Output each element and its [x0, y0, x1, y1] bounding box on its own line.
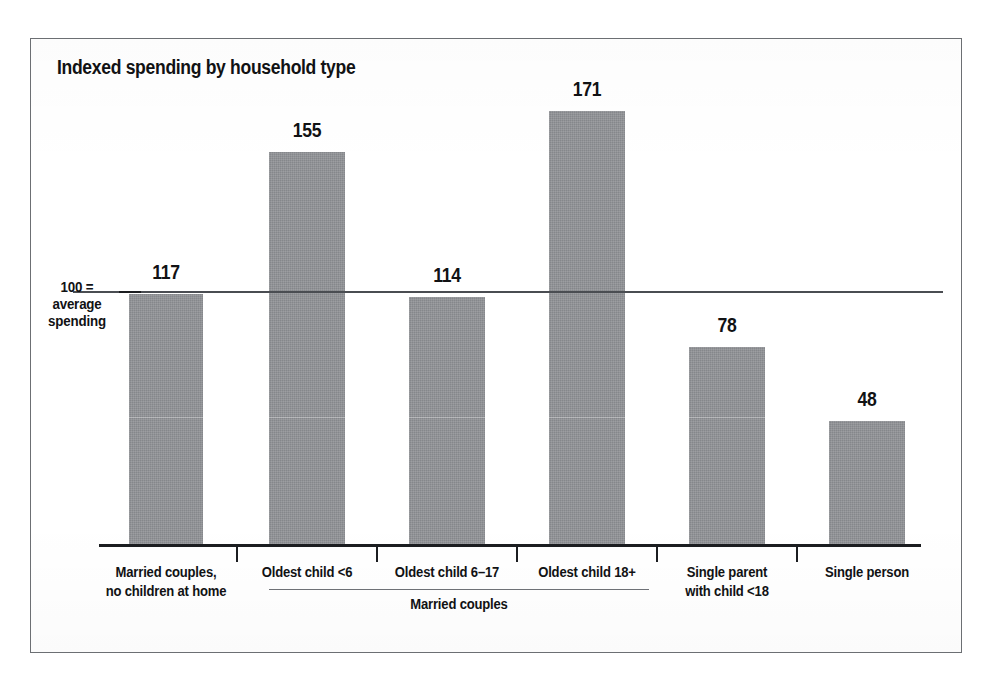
bar-oldest-child-6-17 — [409, 297, 485, 544]
reference-label-line: spending — [40, 313, 114, 330]
plot-area: 117 155 114 171 78 48 100 = average spen… — [31, 39, 962, 653]
bar-value-label: 155 — [274, 119, 341, 142]
category-label-line: Single person — [799, 563, 936, 582]
category-label-married-no-children: Married couples, no children at home — [94, 563, 238, 601]
category-tick — [236, 545, 238, 562]
category-label-line: Oldest child 6–17 — [379, 563, 516, 582]
bar-oldest-child-under-6 — [269, 152, 345, 544]
reference-label-line: average — [40, 296, 114, 313]
bar-single-person — [829, 421, 905, 544]
bar-oldest-child-18-plus — [549, 111, 625, 544]
chart-figure: Indexed spending by household type 117 1… — [30, 38, 962, 653]
reference-line-tick — [119, 291, 141, 293]
category-label-oldest-child-18-plus: Oldest child 18+ — [519, 563, 656, 582]
category-label-line: with child <18 — [659, 582, 796, 601]
reference-line-label: 100 = average spending — [40, 279, 114, 330]
reference-label-line: 100 = — [40, 279, 114, 296]
category-label-line: Single parent — [659, 563, 796, 582]
category-label-single-parent: Single parent with child <18 — [659, 563, 796, 601]
reference-line-100 — [73, 291, 943, 293]
bar-married-no-children — [129, 294, 203, 544]
bar-single-parent-child-under-18 — [689, 347, 765, 544]
category-label-line: no children at home — [94, 582, 238, 601]
bar-value-label: 48 — [834, 388, 901, 411]
group-bracket-label: Married couples — [288, 596, 630, 612]
category-tick — [796, 545, 798, 562]
category-label-oldest-child-under-6: Oldest child <6 — [239, 563, 376, 582]
category-tick — [376, 545, 378, 562]
category-tick — [516, 545, 518, 562]
category-tick — [656, 545, 658, 562]
bar-value-label: 114 — [414, 264, 481, 287]
category-label-line: Oldest child <6 — [239, 563, 376, 582]
bar-value-label: 117 — [133, 261, 198, 284]
category-label-single-person: Single person — [799, 563, 936, 582]
bar-value-label: 78 — [694, 314, 761, 337]
group-bracket-line — [269, 589, 649, 590]
bar-value-label: 171 — [554, 78, 621, 101]
category-label-line: Oldest child 18+ — [519, 563, 656, 582]
category-label-oldest-child-6-17: Oldest child 6–17 — [379, 563, 516, 582]
category-label-line: Married couples, — [94, 563, 238, 582]
